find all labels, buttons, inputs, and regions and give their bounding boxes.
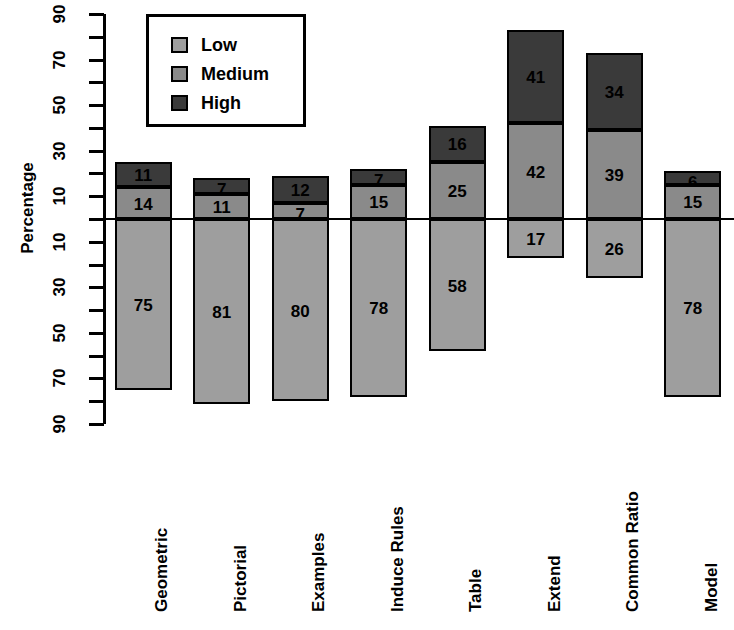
x-axis-label-induce-rules: Induce Rules xyxy=(388,506,408,612)
x-axis-label-examples: Examples xyxy=(309,533,329,612)
y-axis-tick xyxy=(89,59,104,62)
y-axis-tick xyxy=(89,400,104,403)
bar-segment-low[interactable]: 17 xyxy=(507,219,564,258)
legend-item-high[interactable]: High xyxy=(171,91,241,115)
stacked-bar-chart: Percentage 90705030101030507090 11147571… xyxy=(0,0,734,630)
legend-label: High xyxy=(201,94,241,112)
bar-segment-medium[interactable]: 7 xyxy=(272,203,329,219)
y-axis-tick-label: 50 xyxy=(50,311,70,355)
bar-segment-low[interactable]: 81 xyxy=(193,219,250,404)
chart-legend: LowMediumHigh xyxy=(146,14,306,127)
bar-segment-value: 11 xyxy=(117,167,170,184)
zero-reference-line xyxy=(104,218,734,220)
y-axis-tick-label: 10 xyxy=(50,220,70,264)
y-axis-tick xyxy=(89,127,104,130)
bar-segment-medium[interactable]: 15 xyxy=(350,185,407,219)
y-axis-tick-label: 10 xyxy=(50,174,70,218)
bar-segment-medium[interactable]: 25 xyxy=(429,162,486,219)
bar-segment-value: 78 xyxy=(352,300,405,317)
y-axis-tick xyxy=(89,150,104,153)
bar-segment-low[interactable]: 58 xyxy=(429,219,486,351)
bar-segment-value: 16 xyxy=(431,136,484,153)
y-axis-tick xyxy=(89,286,104,289)
x-axis-label-extend: Extend xyxy=(545,555,565,612)
x-axis-label-model: Model xyxy=(702,563,722,612)
bar-segment-value: 15 xyxy=(666,194,719,211)
y-axis-tick xyxy=(89,423,104,426)
legend-swatch-medium-icon xyxy=(171,66,188,82)
bar-segment-value: 81 xyxy=(195,304,248,321)
y-axis-tick xyxy=(89,241,104,244)
y-axis-tick-label: 90 xyxy=(50,402,70,446)
bar-segment-low[interactable]: 78 xyxy=(350,219,407,397)
bar-segment-high[interactable]: 6 xyxy=(664,171,721,185)
x-axis-label-common-ratio: Common Ratio xyxy=(623,491,643,612)
x-axis-label-geometric: Geometric xyxy=(152,528,172,612)
bar-segment-value: 7 xyxy=(352,172,405,185)
y-axis-tick xyxy=(89,309,104,312)
y-axis-tick xyxy=(89,81,104,84)
bar-segment-low[interactable]: 26 xyxy=(586,219,643,278)
y-axis-title: Percentage xyxy=(18,128,38,288)
y-axis-tick xyxy=(89,218,104,221)
bar-segment-high[interactable]: 12 xyxy=(272,176,329,203)
y-axis-tick xyxy=(89,377,104,380)
bar-segment-medium[interactable]: 15 xyxy=(664,185,721,219)
y-axis-tick-label: 30 xyxy=(50,129,70,173)
y-axis-tick-label: 90 xyxy=(50,0,70,36)
bar-segment-value: 42 xyxy=(509,164,562,181)
legend-label: Medium xyxy=(201,65,269,83)
bar-segment-high[interactable]: 34 xyxy=(586,53,643,130)
bar-segment-low[interactable]: 80 xyxy=(272,219,329,401)
bar-segment-value: 80 xyxy=(274,303,327,320)
bar-segment-value: 6 xyxy=(666,174,719,185)
bar-segment-value: 7 xyxy=(195,181,248,194)
bar-segment-medium[interactable]: 39 xyxy=(586,130,643,219)
bar-segment-value: 26 xyxy=(588,241,641,258)
y-axis-tick xyxy=(89,36,104,39)
bar-segment-medium[interactable]: 11 xyxy=(193,194,250,219)
bar-segment-medium[interactable]: 42 xyxy=(507,123,564,219)
legend-label: Low xyxy=(201,36,237,54)
bar-segment-value: 41 xyxy=(509,69,562,86)
bar-segment-value: 25 xyxy=(431,183,484,200)
bar-segment-medium[interactable]: 14 xyxy=(115,187,172,219)
bar-segment-value: 17 xyxy=(509,231,562,248)
y-axis-tick xyxy=(89,332,104,335)
y-axis-tick xyxy=(89,104,104,107)
bar-segment-high[interactable]: 11 xyxy=(115,162,172,187)
bar-segment-value: 11 xyxy=(195,199,248,216)
bar-segment-value: 78 xyxy=(666,300,719,317)
x-axis-label-table: Table xyxy=(466,569,486,612)
bar-segment-value: 39 xyxy=(588,167,641,184)
y-axis-tick xyxy=(89,355,104,358)
bar-segment-value: 15 xyxy=(352,194,405,211)
x-axis-label-pictorial: Pictorial xyxy=(231,545,251,612)
y-axis-tick-label: 70 xyxy=(50,356,70,400)
bar-segment-low[interactable]: 78 xyxy=(664,219,721,397)
bar-segment-value: 12 xyxy=(274,182,327,199)
y-axis-tick-label: 50 xyxy=(50,83,70,127)
bar-segment-value: 75 xyxy=(117,297,170,314)
bar-segment-low[interactable]: 75 xyxy=(115,219,172,390)
bar-segment-value: 34 xyxy=(588,84,641,101)
y-axis-tick xyxy=(89,172,104,175)
bar-segment-high[interactable]: 7 xyxy=(350,169,407,185)
bar-segment-high[interactable]: 16 xyxy=(429,126,486,162)
y-axis-tick-label: 30 xyxy=(50,265,70,309)
bar-segment-value: 14 xyxy=(117,196,170,213)
bar-segment-high[interactable]: 7 xyxy=(193,178,250,194)
y-axis-tick-label: 70 xyxy=(50,38,70,82)
bar-segment-value: 58 xyxy=(431,278,484,295)
legend-item-low[interactable]: Low xyxy=(171,33,237,57)
legend-swatch-high-icon xyxy=(171,95,188,111)
y-axis-tick xyxy=(89,264,104,267)
y-axis-tick xyxy=(89,13,104,16)
bar-segment-high[interactable]: 41 xyxy=(507,30,564,123)
y-axis-tick xyxy=(89,195,104,198)
legend-item-medium[interactable]: Medium xyxy=(171,62,269,86)
legend-swatch-low-icon xyxy=(171,37,188,53)
